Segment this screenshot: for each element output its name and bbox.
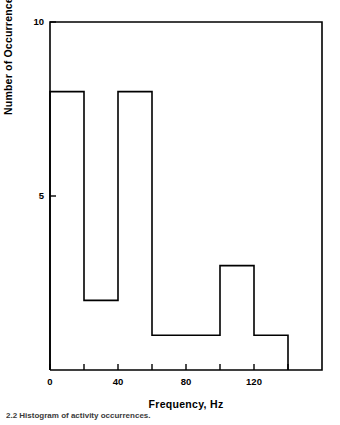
plot-frame-path xyxy=(50,22,322,370)
figure-caption: 2.2 Histogram of activity occurrences. xyxy=(6,411,340,420)
axis-frame xyxy=(50,22,322,370)
histogram-series xyxy=(50,92,288,370)
plot-canvas xyxy=(0,0,340,425)
histogram-step-path xyxy=(50,92,288,370)
tick-marks-group xyxy=(50,22,288,370)
histogram-figure: Number of Occurrences 10 5 0 40 80 120 F… xyxy=(0,0,340,425)
